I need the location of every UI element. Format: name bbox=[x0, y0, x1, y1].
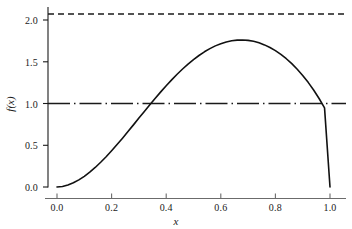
xtick-label-0-6: 0.6 bbox=[214, 202, 227, 213]
xtick-label-1: 1.0 bbox=[323, 202, 336, 213]
plot-canvas bbox=[0, 0, 352, 229]
ytick-label-1-5: 1.5 bbox=[8, 56, 38, 67]
x-axis-label: x bbox=[0, 215, 352, 227]
xtick-label-0: 0.0 bbox=[50, 202, 63, 213]
xtick-label-0-2: 0.2 bbox=[105, 202, 118, 213]
xtick-label-0-8: 0.8 bbox=[269, 202, 282, 213]
ytick-label-2: 2.0 bbox=[8, 15, 38, 26]
y-axis-label: f(x) bbox=[4, 96, 16, 111]
data-curve bbox=[57, 40, 330, 187]
x-axis-ticks bbox=[57, 194, 330, 199]
ytick-label-0-5: 0.5 bbox=[8, 140, 38, 151]
ytick-label-0: 0.0 bbox=[8, 182, 38, 193]
xtick-label-0-4: 0.4 bbox=[160, 202, 173, 213]
chart-figure: 2.0 1.5 1.0 0.5 0.0 0.0 0.2 0.4 0.6 0.8 … bbox=[0, 0, 352, 229]
y-axis-ticks bbox=[43, 20, 48, 187]
